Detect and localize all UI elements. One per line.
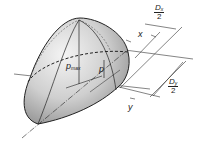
dy-half-label: Dy 2 (168, 78, 178, 95)
p-label: p (99, 65, 104, 74)
x-label: x (138, 30, 143, 39)
y-label: y (128, 103, 133, 112)
dx-half-label: Dx 2 (154, 4, 164, 21)
pmax-label: pmax (66, 62, 80, 71)
